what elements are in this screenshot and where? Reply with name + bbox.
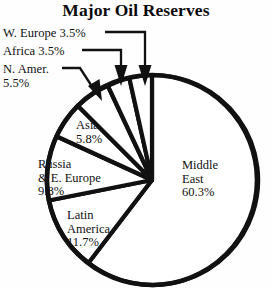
- slice-label-latin-line2: America: [67, 223, 110, 237]
- slice-label-russia-line2: & E. Europe: [38, 172, 101, 186]
- slice-label-latin-america: Latin America 11.7%: [67, 209, 110, 250]
- slice-label-asia-line1: Asia: [76, 119, 102, 133]
- callout-label-w-europe: W. Europe 3.5%: [3, 26, 86, 40]
- slice-label-middle-east-value: 60.3%: [182, 186, 218, 200]
- callout-label-africa-text: Africa 3.5%: [3, 44, 65, 58]
- leader-line-n-amer: [62, 68, 93, 88]
- slice-label-russia-line1: Russia: [38, 158, 101, 172]
- callout-label-n-amer: N. Amer. 5.5%: [3, 62, 49, 90]
- slice-label-latin-line1: Latin: [67, 209, 110, 223]
- callout-label-africa: Africa 3.5%: [3, 44, 65, 58]
- slice-label-middle-east-line1: Middle: [182, 159, 218, 173]
- leader-line-africa: [82, 50, 121, 65]
- slice-label-latin-value: 11.7%: [67, 236, 110, 250]
- slice-label-middle-east-line2: East: [182, 173, 218, 187]
- slice-label-russia-value: 9.8%: [38, 185, 101, 199]
- slice-label-russia: Russia & E. Europe 9.8%: [38, 158, 101, 199]
- slice-label-asia: Asia 5.8%: [76, 119, 102, 146]
- slice-label-middle-east: Middle East 60.3%: [182, 159, 218, 200]
- chart-page: Major Oil Reserves: [0, 0, 272, 288]
- callout-label-w-europe-text: W. Europe 3.5%: [3, 26, 86, 40]
- callout-label-n-amer-value: 5.5%: [3, 76, 49, 90]
- leader-line-w-europe: [105, 32, 145, 65]
- callout-label-n-amer-line1: N. Amer.: [3, 62, 49, 76]
- slice-label-asia-value: 5.8%: [76, 133, 102, 147]
